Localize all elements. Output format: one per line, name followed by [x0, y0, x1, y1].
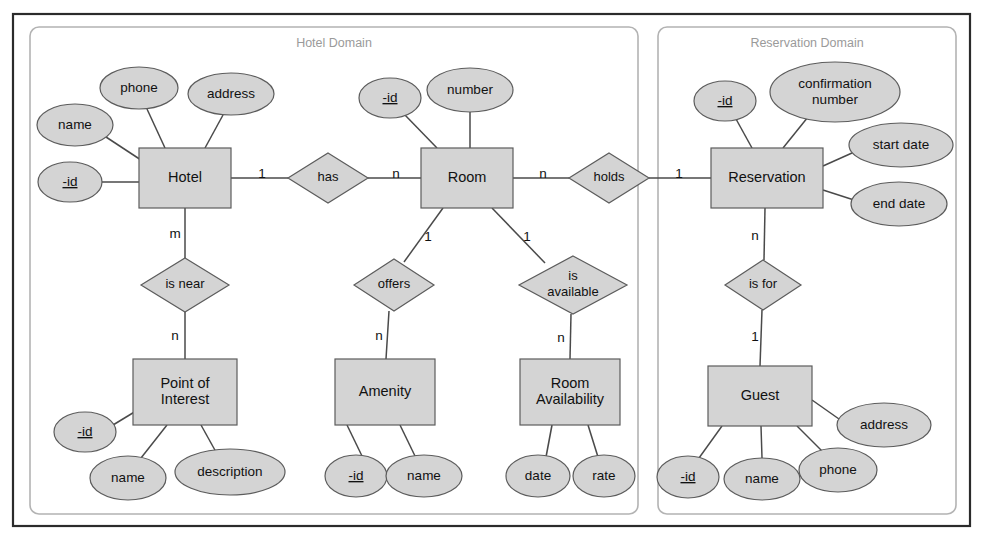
relationship-is-available[interactable]: isavailable — [519, 256, 627, 314]
attribute-label: rate — [592, 468, 615, 483]
edge-e-hotel-name — [106, 137, 141, 160]
cardinality-card-holds-reservation: 1 — [675, 166, 683, 181]
relationship-label: offers — [378, 276, 411, 291]
edge-e-res-id — [736, 119, 752, 148]
entity-label: Point ofInterest — [160, 375, 210, 407]
cardinality-card-hotel-has: 1 — [258, 166, 266, 181]
attribute-reservation-start-date[interactable]: start date — [849, 123, 953, 167]
attribute-room-id[interactable]: -id — [359, 78, 421, 118]
edge-e-offers-amenity — [386, 311, 389, 359]
attribute-label: name — [745, 471, 779, 486]
attribute-reservation-confirmation[interactable]: confirmationnumber — [770, 62, 900, 122]
attribute-poi-description[interactable]: description — [175, 449, 285, 495]
edge-e-res-confirm — [783, 117, 808, 148]
edge-e-amenity-name — [400, 425, 415, 456]
attribute-availability-rate[interactable]: rate — [573, 455, 635, 497]
edge-e-res-start — [823, 153, 852, 166]
edge-e-room-id — [404, 114, 437, 148]
entity-label: Reservation — [728, 169, 805, 185]
entity-point-of-interest[interactable]: Point ofInterest — [133, 359, 237, 425]
edge-e-guest-id — [699, 426, 722, 458]
cardinality-card-room-holds: n — [539, 166, 547, 181]
attribute-hotel-phone[interactable]: phone — [100, 67, 178, 109]
attribute-room-number[interactable]: number — [427, 68, 513, 112]
cardinality-card-isavail-roomav: n — [557, 330, 565, 345]
attribute-guest-id[interactable]: -id — [657, 456, 719, 498]
cardinality-card-hotel-isnear: m — [169, 226, 180, 241]
edge-e-hotel-address — [205, 115, 223, 148]
er-diagram-svg: Hotel DomainReservation Domain hasholdsi… — [0, 0, 983, 539]
attribute-label: start date — [873, 137, 929, 152]
attribute-key-label: -id — [717, 93, 732, 108]
entity-room-availability[interactable]: RoomAvailability — [520, 359, 620, 425]
attribute-key-label: -id — [680, 469, 695, 484]
edge-e-guest-name — [761, 426, 762, 458]
entity-reservation[interactable]: Reservation — [711, 148, 823, 208]
attribute-hotel-address[interactable]: address — [188, 73, 274, 115]
edge-e-isfor-guest — [760, 310, 762, 366]
relationship-label: has — [318, 169, 339, 184]
edge-e-room-isavail — [492, 208, 545, 263]
entity-guest[interactable]: Guest — [708, 366, 812, 426]
attribute-guest-name[interactable]: name — [724, 458, 800, 500]
relationship-offers[interactable]: offers — [354, 259, 434, 311]
edge-e-poi-name — [141, 425, 167, 458]
attribute-label: name — [58, 117, 92, 132]
cardinality-card-res-isfor: n — [751, 228, 759, 243]
entity-room[interactable]: Room — [421, 148, 513, 208]
attribute-poi-name[interactable]: name — [90, 456, 166, 500]
attribute-guest-phone[interactable]: phone — [799, 448, 877, 492]
attribute-key-label: -id — [348, 468, 363, 483]
er-diagram-canvas: Hotel DomainReservation Domain hasholdsi… — [0, 0, 983, 539]
cardinality-card-isfor-guest: 1 — [751, 329, 759, 344]
attribute-label: address — [860, 417, 908, 432]
edge-e-amenity-id — [347, 425, 362, 456]
attribute-availability-date[interactable]: date — [506, 455, 570, 497]
entities-group: HotelRoomReservationPoint ofInterestAmen… — [133, 148, 823, 426]
relationship-label: is for — [749, 276, 778, 291]
attribute-hotel-name[interactable]: name — [37, 104, 113, 146]
attribute-amenity-id[interactable]: -id — [325, 455, 387, 497]
attribute-label: address — [207, 86, 255, 101]
attribute-key-label: -id — [382, 90, 397, 105]
entity-label: Guest — [741, 387, 780, 403]
entity-label: Room — [448, 169, 487, 185]
relationship-has[interactable]: has — [288, 153, 368, 203]
entity-hotel[interactable]: Hotel — [139, 148, 231, 208]
edge-e-av-date — [546, 425, 552, 457]
attribute-label: end date — [873, 196, 926, 211]
attribute-label: name — [407, 468, 441, 483]
attribute-guest-address[interactable]: address — [837, 403, 931, 447]
edge-e-guest-address — [812, 400, 839, 419]
edge-e-res-end — [823, 190, 854, 200]
cardinality-card-room-isavail: 1 — [523, 229, 531, 244]
attribute-hotel-id[interactable]: -id — [38, 162, 102, 202]
edge-e-guest-phone — [797, 426, 823, 452]
domain-label: Hotel Domain — [296, 36, 372, 50]
edge-e-av-rate — [588, 425, 598, 457]
entity-label: Amenity — [359, 383, 412, 399]
cardinality-card-room-offers: 1 — [424, 229, 432, 244]
attribute-label: name — [111, 470, 145, 485]
entity-label: Hotel — [168, 169, 202, 185]
attribute-reservation-end-date[interactable]: end date — [851, 182, 947, 226]
entity-amenity[interactable]: Amenity — [335, 359, 435, 425]
cardinality-card-isnear-poi: n — [171, 328, 179, 343]
edge-e-isavail-roomav — [570, 314, 571, 359]
attribute-label: phone — [819, 462, 857, 477]
attribute-label: description — [197, 464, 262, 479]
attribute-reservation-id[interactable]: -id — [694, 81, 756, 121]
relationship-label: holds — [593, 169, 625, 184]
edge-e-res-isfor — [764, 208, 765, 260]
relationship-label: is near — [165, 276, 205, 291]
attribute-key-label: -id — [62, 174, 77, 189]
relationship-is-near[interactable]: is near — [141, 258, 229, 312]
attribute-amenity-name[interactable]: name — [386, 455, 462, 497]
domain-label: Reservation Domain — [750, 36, 863, 50]
attribute-key-label: -id — [77, 424, 92, 439]
edge-e-hotel-phone — [147, 109, 165, 148]
attribute-label: number — [447, 82, 493, 97]
attribute-poi-id[interactable]: -id — [54, 412, 116, 452]
relationship-holds[interactable]: holds — [569, 153, 649, 203]
relationship-is-for[interactable]: is for — [725, 260, 801, 310]
